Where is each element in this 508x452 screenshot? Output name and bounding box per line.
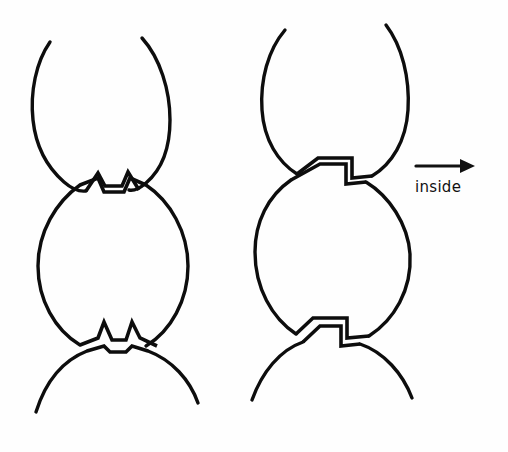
left-lower-junction-notch-inner [87,346,148,352]
left-middle-circle-left-side [38,185,80,345]
right-bottom-arc-left-side [252,342,303,400]
left-top-arc-left-side [32,42,86,191]
figure-root: inside [0,0,508,452]
right-panel [252,25,412,400]
right-bottom-arc-right-side [360,344,412,398]
left-lower-junction-notch [80,322,157,346]
left-bottom-arc-right-side [148,351,198,403]
left-top-arc-right-side [129,38,170,190]
inside-label: inside [415,178,461,196]
inside-annotation: inside [415,159,475,196]
right-middle-circle-left-side [255,180,296,334]
inside-arrow-head [460,159,475,173]
right-middle-circle-right-side [366,182,410,336]
right-upper-junction-step-inner [291,164,366,184]
right-top-arc-left-side [262,30,297,174]
right-lower-junction-step [296,318,369,338]
left-bottom-arc-left-side [36,351,87,412]
left-panel [32,38,198,412]
left-middle-circle-right-side [146,185,188,346]
right-top-arc-right-side [372,25,408,176]
hand-drawn-diagram: inside [0,0,508,452]
right-upper-junction-step [297,158,372,178]
